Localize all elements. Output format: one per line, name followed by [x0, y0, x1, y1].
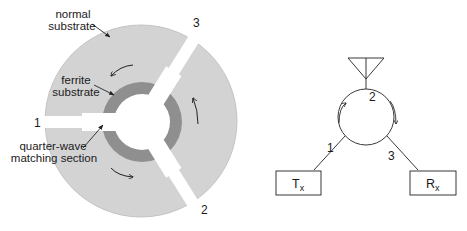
circulator-schematic: [276, 58, 456, 195]
schematic-port-2-label: 2: [369, 90, 376, 104]
normal-substrate-label-line2: substrate: [48, 20, 95, 32]
port-1-label: 1: [34, 116, 41, 130]
microstrip-circulator-diagram: normal substrate ferrite substrate quart…: [11, 8, 237, 225]
quarter-wave-label-line2: matching section: [11, 152, 97, 164]
antenna-icon: [348, 58, 384, 79]
ferrite-substrate-label-line2: substrate: [52, 86, 99, 98]
tx-label: Tx: [292, 177, 305, 193]
schematic-port-3-label: 3: [388, 149, 395, 163]
normal-substrate-label-line1: normal: [55, 8, 90, 20]
schematic-port-1-label: 1: [327, 141, 334, 155]
quarter-wave-label-line1: quarter-wave: [19, 140, 86, 152]
rx-label: Rx: [426, 177, 440, 193]
port-3-label: 3: [193, 16, 200, 30]
ferrite-substrate-label-line1: ferrite: [61, 74, 90, 86]
port-2-label: 2: [201, 203, 208, 217]
circulator-figure: normal substrate ferrite substrate quart…: [0, 0, 467, 231]
circulator-symbol: [338, 89, 394, 145]
